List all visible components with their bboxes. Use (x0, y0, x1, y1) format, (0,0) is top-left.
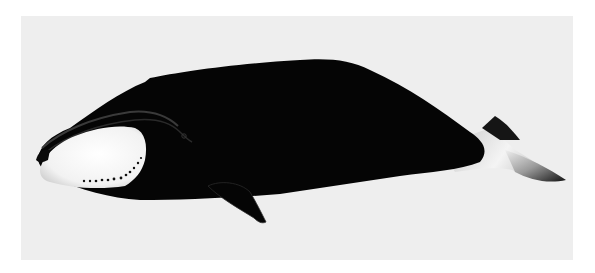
whale-illustration (21, 16, 573, 260)
image-frame (0, 0, 595, 273)
illustration-canvas (21, 16, 573, 260)
